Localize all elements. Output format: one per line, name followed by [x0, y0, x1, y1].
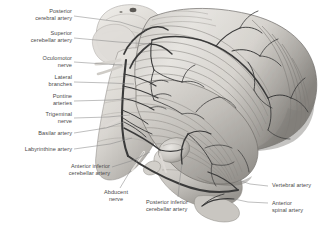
label-oculomotor-nerve: Oculomotor nerve [18, 55, 72, 68]
label-anterior-spinal-artery: Anterior spinal artery [272, 200, 334, 213]
label-superior-cerebellar-artery: Superior cerebellar artery [4, 30, 72, 43]
anatomical-figure: Posterior cerebral artery Superior cereb… [0, 0, 336, 227]
label-posterior-cerebral-artery: Posterior cerebral artery [8, 8, 72, 21]
label-posterior-inferior-cerebellar-artery: Posterior inferior cerebellar artery [146, 199, 212, 212]
label-vertebral-artery: Vertebral artery [272, 182, 334, 189]
label-trigeminal-nerve: Trigeminal nerve [20, 111, 72, 124]
label-labyrinthine-artery: Labyrinthine artery [8, 146, 72, 153]
label-basilar-artery: Basilar artery [18, 130, 72, 137]
label-pontine-arteries: Pontine arteries [24, 93, 72, 106]
label-anterior-inferior-cerebellar-artery: Anterior inferior cerebellar artery [44, 163, 110, 176]
label-lateral-branches: Lateral branches [22, 74, 72, 87]
label-abducent-nerve: Abducent nerve [94, 189, 138, 202]
